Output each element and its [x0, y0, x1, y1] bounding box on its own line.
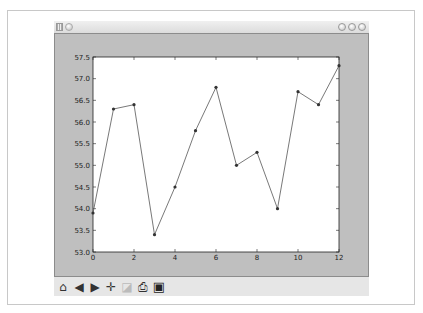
x-tick-label: 2	[132, 254, 136, 262]
data-point	[173, 185, 176, 188]
y-tick-label: 56.0	[74, 119, 90, 127]
x-tick-label: 8	[255, 254, 259, 262]
zoom-button[interactable]: ◪	[120, 279, 134, 294]
home-icon: ⌂	[59, 281, 67, 293]
back-arrow-icon: ◀	[74, 281, 83, 293]
x-tick-label: 4	[173, 254, 178, 262]
data-point	[276, 207, 279, 210]
window-menu-icon[interactable]	[65, 23, 73, 31]
data-point	[214, 86, 217, 89]
data-point	[337, 64, 340, 67]
pan-button[interactable]: ✛	[104, 279, 118, 294]
figure-canvas[interactable]: 53.053.554.054.555.055.556.056.557.057.5…	[54, 33, 369, 277]
plot-window: 53.053.554.054.555.055.556.056.557.057.5…	[54, 21, 369, 296]
navigation-toolbar: ⌂◀▶✛◪⎙▣	[54, 277, 369, 296]
data-point	[296, 90, 299, 93]
configure-subplots-icon: ⎙	[138, 281, 148, 293]
data-point	[255, 151, 258, 154]
back-button[interactable]: ◀	[72, 279, 86, 294]
line-chart: 53.053.554.054.555.055.556.056.557.057.5…	[55, 34, 370, 278]
data-point	[235, 164, 238, 167]
y-tick-label: 57.5	[74, 54, 90, 62]
data-point	[317, 103, 320, 106]
data-point	[112, 107, 115, 110]
x-tick-label: 12	[335, 254, 344, 262]
y-tick-label: 56.5	[74, 97, 90, 105]
save-button[interactable]: ▣	[152, 279, 166, 294]
y-tick-label: 55.0	[74, 162, 90, 170]
data-point	[132, 103, 135, 106]
x-tick-label: 0	[91, 254, 95, 262]
data-point	[153, 233, 156, 236]
pan-move-icon: ✛	[106, 281, 116, 293]
minimize-button[interactable]	[338, 23, 346, 31]
y-tick-label: 54.0	[74, 205, 90, 213]
x-tick-label: 6	[214, 254, 219, 262]
data-point	[194, 129, 197, 132]
x-tick-label: 10	[294, 254, 303, 262]
y-tick-label: 57.0	[74, 75, 90, 83]
y-tick-label: 55.5	[74, 140, 90, 148]
save-floppy-icon: ▣	[153, 280, 165, 293]
forward-arrow-icon: ▶	[90, 281, 99, 293]
y-tick-label: 54.5	[74, 184, 90, 192]
app-icon	[56, 23, 63, 31]
y-tick-label: 53.0	[74, 249, 90, 257]
close-button[interactable]	[358, 23, 366, 31]
y-tick-label: 53.5	[74, 227, 90, 235]
maximize-button[interactable]	[348, 23, 356, 31]
forward-button[interactable]: ▶	[88, 279, 102, 294]
data-point	[91, 211, 94, 214]
zoom-rect-icon: ◪	[121, 281, 132, 293]
home-button[interactable]: ⌂	[56, 279, 70, 294]
configure-button[interactable]: ⎙	[136, 279, 150, 294]
